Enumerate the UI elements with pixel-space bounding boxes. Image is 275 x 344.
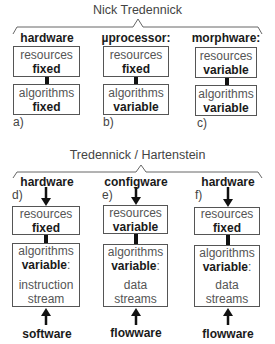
stream-line-1: instruction [19,278,74,292]
algorithms-box: algorithms variable: data streams [103,244,168,307]
arrow-down-icon [41,187,51,206]
algorithms-colon: : [248,260,251,274]
stream-line-1: data [124,278,147,292]
algorithms-label: algorithms [18,244,73,258]
column-footer: software [8,327,86,341]
algorithms-box: algorithms fixed [13,84,80,115]
resources-label: resources [109,206,162,220]
stream-line-1: data [215,278,238,292]
column-footer: flowware [96,326,176,340]
column-tag: e) [102,188,113,202]
resources-box: resources variable [195,47,257,78]
resources-value: fixed [32,62,60,76]
arrow-up-icon [131,308,141,325]
top-title: Nick Tredennick [0,3,275,17]
arrow-down-icon [131,187,141,205]
column-header: hardware [8,175,86,189]
resources-label: resources [201,207,254,221]
connector [226,235,230,245]
algorithms-label: algorithms [108,245,163,259]
resources-box: resources fixed [12,206,80,235]
algorithms-value: variable [111,259,156,273]
resources-box: resources fixed [103,46,169,77]
connector [225,78,229,85]
resources-value: variable [113,220,158,234]
column-tag: d) [12,188,23,202]
algorithms-box: algorithms variable [103,84,169,115]
resources-value: fixed [122,62,150,76]
column-tag: c) [197,116,207,130]
algorithms-value: variable [203,260,248,274]
algorithms-box: algorithms variable: instruction stream [12,243,80,307]
algorithms-label: algorithms [199,246,254,260]
resources-value: fixed [32,221,60,235]
resources-label: resources [200,49,253,63]
resources-box: resources variable [103,205,168,234]
resources-box: resources fixed [194,207,260,235]
resources-label: resources [110,48,163,62]
algorithms-box: algorithms variable: data streams [194,245,260,307]
algorithms-label: algorithms [198,87,253,101]
bottom-title: Tredennick / Hartenstein [0,148,275,162]
algorithms-box: algorithms variable [195,85,257,116]
arrow-down-icon [223,187,233,207]
algorithms-label: algorithms [19,86,74,100]
resources-value: variable [203,63,248,77]
algorithms-colon: : [157,259,160,273]
connector [134,77,138,84]
resources-label: resources [20,48,73,62]
column-tag: b) [103,115,114,129]
algorithms-value: fixed [32,100,60,114]
column-tag: f) [195,188,202,202]
connector [45,77,49,84]
column-header: µprocessor: [98,31,174,45]
stream-line-2: streams [114,292,157,306]
column-header: morphware: [190,31,262,45]
resources-box: resources fixed [13,46,80,77]
resources-value: fixed [213,221,241,235]
arrow-up-icon [223,308,233,325]
algorithms-value: variable [203,101,248,115]
column-header: hardware [8,31,86,45]
algorithms-value: variable [113,100,158,114]
algorithms-label: algorithms [108,86,163,100]
column-tag: a) [13,115,24,129]
algorithms-value: variable [22,258,67,272]
algorithms-colon: : [67,258,70,272]
column-header: configware [96,175,176,189]
stream-line-2: stream [28,292,65,306]
column-footer: flowware [188,327,268,341]
resources-label: resources [20,207,73,221]
connector [134,234,138,244]
arrow-up-icon [41,308,51,325]
column-header: hardware [188,175,268,189]
stream-line-2: streams [206,292,249,306]
